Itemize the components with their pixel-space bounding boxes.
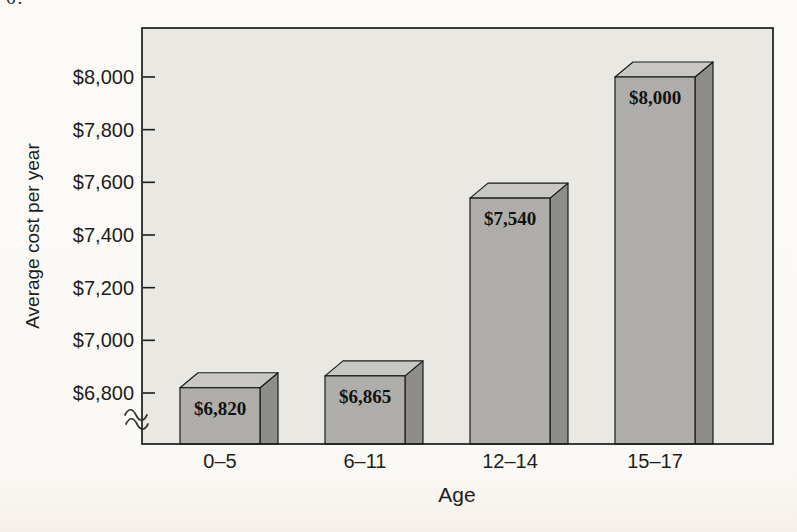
x-category-label: 12–14: [482, 450, 538, 472]
y-tick-label: $7,800: [73, 119, 134, 141]
bar-value-label: $6,865: [339, 386, 391, 407]
y-tick-label: $8,000: [73, 66, 134, 88]
bar-texture: [615, 77, 695, 444]
bar-top-face: [180, 373, 278, 388]
x-category-label: 6–11: [343, 450, 386, 472]
y-tick-label: $6,800: [73, 382, 134, 404]
bar-texture: [470, 198, 550, 444]
y-tick-label: $7,400: [73, 224, 134, 246]
bar-side-face: [695, 62, 713, 444]
x-category-label: 15–17: [627, 450, 683, 472]
bar-value-label: $7,540: [484, 208, 536, 229]
x-axis-title: Age: [438, 483, 475, 507]
y-axis-title: Average cost per year: [22, 143, 44, 329]
bar-top-face: [615, 62, 713, 77]
bar-value-label: $8,000: [629, 87, 681, 108]
y-tick-label: $7,000: [73, 329, 134, 351]
page-edge-text-fragment: 6.: [6, 0, 46, 8]
bar-top-face: [470, 183, 568, 198]
chart-page: 6. Average cost per year $6,800$7,000$7,…: [0, 0, 797, 532]
y-tick-label: $7,600: [73, 171, 134, 193]
bar-side-face: [550, 183, 568, 444]
bar-top-face: [325, 361, 423, 376]
bar-chart: $6,800$7,000$7,200$7,400$7,600$7,800$8,0…: [0, 0, 797, 532]
x-category-label: 0–5: [203, 450, 236, 472]
y-tick-label: $7,200: [73, 277, 134, 299]
bar-value-label: $6,820: [194, 398, 246, 419]
